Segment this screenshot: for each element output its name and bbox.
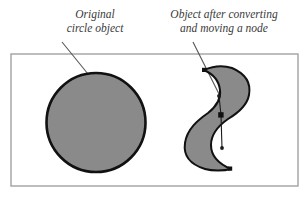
node-marker-bottom[interactable] xyxy=(228,167,232,171)
handle-point-top[interactable] xyxy=(217,94,221,98)
figure-canvas: Original circle object Object after conv… xyxy=(0,0,304,200)
selected-node-marker[interactable] xyxy=(218,112,223,117)
node-marker-top[interactable] xyxy=(202,68,206,72)
handle-point-bottom[interactable] xyxy=(220,146,224,150)
original-circle-object[interactable] xyxy=(47,73,146,172)
figure-illustration xyxy=(0,0,304,200)
